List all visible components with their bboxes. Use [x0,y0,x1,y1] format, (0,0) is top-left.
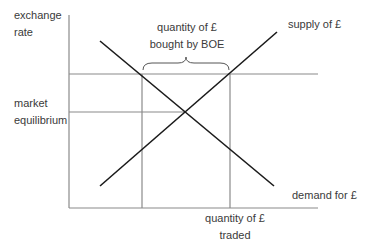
supply-curve [100,32,277,186]
quantity-brace [143,57,229,70]
demand-label: demand for £ [292,187,357,204]
x-axis-label: quantity of £ traded [200,210,270,244]
y-axis-label: exchange rate [14,7,62,41]
brace-label-line1: quantity of £ [146,19,228,36]
brace-label: quantity of £ bought by BOE [146,19,228,53]
brace-label-line2: bought by BOE [146,36,228,53]
supply-label: supply of £ [288,16,341,33]
y-axis-label-line1: exchange [14,7,62,24]
y-axis-label-line2: rate [14,24,62,41]
equilibrium-label: market equilibrium [14,95,67,129]
equilibrium-label-line1: market [14,95,67,112]
x-axis-label-line2: traded [200,227,270,244]
x-axis-label-line1: quantity of £ [200,210,270,227]
equilibrium-label-line2: equilibrium [14,112,67,129]
